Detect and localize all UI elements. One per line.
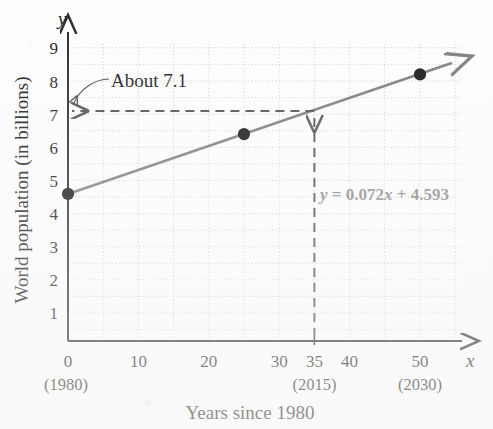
y-tick-5: 5: [50, 172, 59, 191]
chart-figure: About 7.1 y = 0.072x + 4.593 y x 1 2 3 4…: [0, 0, 493, 429]
callout-leader-line: [74, 79, 110, 104]
x-tick-40: 40: [341, 352, 358, 371]
y-axis-variable: y: [56, 8, 67, 29]
x-tick-30: 30: [271, 352, 288, 371]
chart-canvas: About 7.1 y = 0.072x + 4.593 y x 1 2 3 4…: [0, 0, 493, 429]
x-axis-variable: x: [465, 350, 475, 371]
y-tick-6: 6: [50, 139, 59, 158]
y-tick-9: 9: [50, 39, 59, 58]
data-point: [414, 68, 426, 80]
svg-text:y = 0.072x + 4.593: y = 0.072x + 4.593: [318, 185, 449, 204]
year-label-1980: (1980): [44, 375, 88, 394]
callout-about-7-1: About 7.1: [111, 70, 187, 91]
equation-rhs: + 4.593: [392, 185, 448, 204]
y-tick-2: 2: [50, 271, 59, 290]
equation-operator: = 0.072: [328, 185, 384, 204]
y-tick-4: 4: [50, 205, 59, 224]
x-axis-title: Years since 1980: [186, 402, 315, 423]
y-axis-title: World population (in billions): [11, 77, 33, 304]
x-tick-50: 50: [412, 352, 429, 371]
data-point: [62, 188, 74, 200]
equation-label: y = 0.072x + 4.593: [318, 185, 449, 204]
year-label-2015: (2015): [292, 375, 336, 394]
x-tick-10: 10: [130, 352, 147, 371]
y-tick-labels: 1 2 3 4 5 6 7 8 9: [50, 39, 59, 323]
y-tick-3: 3: [50, 238, 59, 257]
data-point: [238, 128, 250, 140]
equation-lhs: y: [318, 185, 328, 204]
x-tick-35: 35: [306, 352, 323, 371]
x-tick-labels: 0 10 20 30 35 40 50: [64, 352, 429, 371]
x-year-labels: (1980) (2015) (2030): [44, 375, 442, 394]
y-tick-8: 8: [50, 73, 59, 92]
y-tick-7: 7: [50, 106, 59, 125]
equation-var-x: x: [383, 185, 393, 204]
x-tick-20: 20: [200, 352, 217, 371]
x-tick-0: 0: [64, 352, 73, 371]
year-label-2030: (2030): [398, 375, 442, 394]
y-tick-1: 1: [50, 304, 59, 323]
